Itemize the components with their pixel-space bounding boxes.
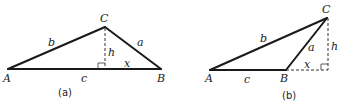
caption-a: (a) — [58, 87, 72, 98]
vertex-C-label-b: C — [322, 3, 331, 16]
side-b-a — [8, 27, 105, 69]
caption-b: (b) — [282, 90, 296, 101]
figure-a: A B C b a c h x (a) — [2, 12, 165, 98]
side-c-label-a: c — [81, 72, 87, 85]
figure-b: A B C b a c h x (b) — [204, 3, 338, 101]
side-b-label-b: b — [260, 32, 267, 45]
vertex-B-label-a: B — [156, 72, 165, 85]
vertex-A-label-a: A — [2, 72, 11, 85]
segment-x-label-b: x — [304, 58, 311, 71]
vertex-B-label-b: B — [279, 72, 288, 85]
segment-x-label-a: x — [124, 57, 131, 70]
side-a-label-b: a — [308, 41, 315, 54]
side-b-label-a: b — [48, 36, 55, 49]
side-a-label-a: a — [137, 36, 144, 49]
vertex-C-label-a: C — [100, 12, 109, 25]
height-h-label-b: h — [331, 40, 338, 53]
right-angle-marker-b — [321, 64, 328, 70]
vertex-A-label-b: A — [204, 72, 213, 85]
side-c-label-b: c — [244, 73, 250, 86]
triangle-diagrams: A B C b a c h x (a) A B C b a c h x (b) — [0, 0, 339, 108]
height-h-label-a: h — [108, 46, 115, 59]
